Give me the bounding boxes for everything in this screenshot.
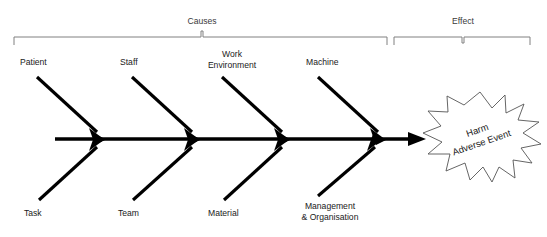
bone-work-environment-label-line2: Environment: [208, 60, 257, 70]
bracket-effect: Effect: [394, 16, 530, 45]
bone-team: Team: [118, 134, 200, 218]
bone-staff: Staff: [120, 57, 200, 145]
bone-work-environment: Work Environment: [208, 49, 290, 145]
effect-starburst: Harm Adverse Event: [423, 92, 541, 182]
bone-machine-label: Machine: [306, 57, 339, 67]
bone-team-line: [133, 147, 192, 200]
bone-team-label: Team: [118, 208, 139, 218]
bone-management-organisation-label-line2: & Organisation: [302, 212, 359, 222]
bone-staff-line: [132, 77, 192, 132]
spine-arrow-head: [408, 132, 426, 146]
bone-work-environment-line: [222, 77, 282, 132]
bone-management-organisation-line: [318, 147, 375, 196]
bracket-effect-line: [394, 37, 530, 45]
bone-patient-line: [37, 77, 97, 132]
fishbone-canvas: Causes Effect Patient Staff Work Environ…: [0, 0, 547, 237]
bone-material-label: Material: [208, 208, 239, 218]
bone-material-line: [224, 147, 282, 200]
bracket-causes-label: Causes: [187, 16, 216, 26]
bone-material: Material: [208, 134, 290, 218]
bone-patient: Patient: [20, 57, 105, 145]
bracket-causes-line: [14, 31, 387, 45]
bracket-causes: Causes: [14, 16, 387, 45]
bone-management-organisation-label-line1: Management: [305, 201, 356, 211]
bone-task: Task: [24, 134, 105, 218]
bone-work-environment-label-line1: Work: [222, 49, 243, 59]
bone-machine: Machine: [306, 57, 386, 145]
bone-task-line: [39, 147, 97, 200]
bone-management-organisation: Management & Organisation: [302, 134, 383, 222]
bone-staff-label: Staff: [120, 57, 138, 67]
bone-patient-label: Patient: [20, 57, 47, 67]
bone-task-label: Task: [24, 208, 42, 218]
bone-machine-line: [318, 77, 378, 132]
fishbone-diagram: Causes Effect Patient Staff Work Environ…: [0, 0, 547, 237]
bracket-effect-label: Effect: [452, 16, 474, 26]
